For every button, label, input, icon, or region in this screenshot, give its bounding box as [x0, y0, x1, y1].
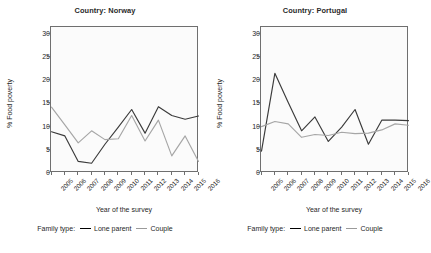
x-tick-label: 2008: [99, 177, 114, 192]
x-tick-mark: [131, 172, 132, 175]
x-tick-label: 2011: [349, 177, 364, 192]
x-tick-label: 2005: [59, 177, 74, 192]
x-tick-label: 2009: [112, 177, 127, 192]
panel-portugal: Country: Portugal % Food poverty 0510152…: [210, 0, 420, 253]
x-tick-label: 2007: [295, 177, 310, 192]
x-tick-label: 2012: [362, 177, 377, 192]
legend-label-couple-left: Couple: [150, 225, 172, 232]
x-tick-label: 2010: [125, 177, 140, 192]
x-tick-label: 2013: [166, 177, 181, 192]
x-tick-label: 2009: [322, 177, 337, 192]
y-tick-label: 5: [4, 145, 50, 152]
y-tick-label: 30: [214, 29, 260, 36]
y-tick-label: 20: [214, 76, 260, 83]
series-line-lone-parent: [262, 73, 409, 151]
x-tick-mark: [51, 172, 52, 175]
legend-swatch-lone-parent-icon: [80, 228, 91, 229]
x-tick-mark: [354, 172, 355, 175]
plot-area-norway: [50, 26, 198, 172]
y-tick-label: 10: [4, 122, 50, 129]
x-tick-mark: [367, 172, 368, 175]
y-tick-label: 20: [4, 76, 50, 83]
x-tick-label: 2011: [139, 177, 154, 192]
x-tick-mark: [171, 172, 172, 175]
x-tick-label: 2016: [416, 177, 431, 192]
x-tick-mark: [144, 172, 145, 175]
x-tick-mark: [77, 172, 78, 175]
legend-swatch-couple-icon: [136, 228, 147, 229]
x-tick-mark: [64, 172, 65, 175]
x-tick-mark: [104, 172, 105, 175]
x-tick-mark: [274, 172, 275, 175]
legend-swatch-couple-icon: [346, 228, 357, 229]
x-tick-mark: [341, 172, 342, 175]
x-tick-label: 2013: [376, 177, 391, 192]
series-lines-norway: [51, 27, 199, 173]
x-tick-label: 2012: [152, 177, 167, 192]
x-tick-label: 2006: [72, 177, 87, 192]
y-tick-label: 15: [214, 99, 260, 106]
legend-title-right: Family type:: [247, 225, 285, 232]
legend-label-couple-right: Couple: [360, 225, 382, 232]
x-tick-mark: [91, 172, 92, 175]
x-tick-mark: [327, 172, 328, 175]
x-tick-mark: [314, 172, 315, 175]
legend-title-left: Family type:: [37, 225, 75, 232]
series-lines-portugal: [261, 27, 409, 173]
y-tick-group-right: 051015202530: [210, 0, 260, 253]
x-tick-label: 2008: [309, 177, 324, 192]
y-tick-label: 5: [214, 145, 260, 152]
legend-label-lone-parent-right: Lone parent: [304, 225, 341, 232]
legend-swatch-lone-parent-icon: [290, 228, 301, 229]
x-tick-label: 2015: [192, 177, 207, 192]
legend-label-lone-parent-left: Lone parent: [94, 225, 131, 232]
x-tick-label: 2007: [85, 177, 100, 192]
x-tick-mark: [157, 172, 158, 175]
legend-left: Family type:Lone parentCouple: [0, 225, 210, 232]
x-tick-mark: [261, 172, 262, 175]
y-tick-label: 0: [4, 169, 50, 176]
y-tick-label: 30: [4, 29, 50, 36]
x-tick-label: 2006: [282, 177, 297, 192]
series-line-lone-parent: [52, 107, 199, 164]
y-tick-label: 25: [214, 53, 260, 60]
x-tick-label: 2014: [389, 177, 404, 192]
y-tick-group-left: 051015202530: [0, 0, 50, 253]
y-tick-label: 25: [4, 53, 50, 60]
x-tick-label: 2010: [335, 177, 350, 192]
x-tick-label: 2014: [179, 177, 194, 192]
x-tick-label: 2015: [402, 177, 417, 192]
x-tick-mark: [287, 172, 288, 175]
x-tick-mark: [394, 172, 395, 175]
x-axis-label-right: Year of the survey: [260, 206, 408, 213]
y-tick-label: 15: [4, 99, 50, 106]
x-tick-label: 2005: [269, 177, 284, 192]
x-tick-mark: [381, 172, 382, 175]
x-tick-mark: [408, 172, 409, 175]
x-tick-mark: [198, 172, 199, 175]
x-tick-mark: [301, 172, 302, 175]
y-tick-label: 0: [214, 169, 260, 176]
y-tick-label: 10: [214, 122, 260, 129]
panel-norway: Country: Norway % Food poverty 051015202…: [0, 0, 210, 253]
x-tick-mark: [117, 172, 118, 175]
x-axis-label-left: Year of the survey: [50, 206, 198, 213]
legend-right: Family type:Lone parentCouple: [210, 225, 420, 232]
plot-area-portugal: [260, 26, 408, 172]
x-tick-mark: [184, 172, 185, 175]
